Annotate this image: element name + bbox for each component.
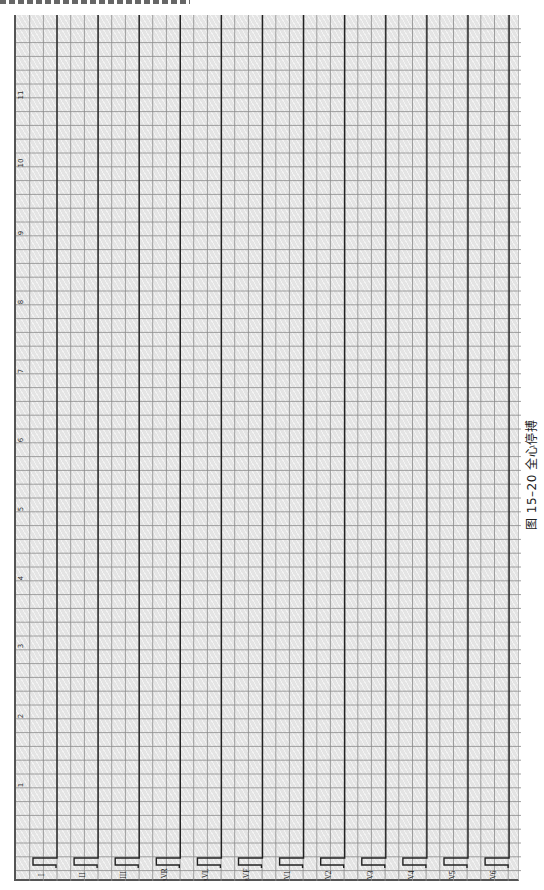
ecg-strip: 1234567891011IIIIIIaVRaVLaVFV1V2V3V4V5V6 [14,15,519,881]
lead-trace-v5 [444,15,468,868]
clipped-header-text [0,0,190,4]
time-tick-label: 10 [17,159,25,168]
time-tick-label: 3 [17,644,25,648]
lead-label-iii: III [119,871,128,879]
lead-trace-v2 [321,15,345,868]
lead-trace-avl [197,15,221,868]
lead-trace-i [33,15,57,868]
time-tick-label: 8 [17,300,25,304]
lead-trace-avf [239,15,263,868]
lead-label-v1: V1 [283,870,292,879]
lead-trace-iii [115,15,139,868]
lead-label-v3: V3 [366,870,375,879]
lead-label-v6: V6 [489,870,498,879]
time-tick-label: 5 [17,507,25,511]
time-tick-label: 2 [17,714,25,718]
time-tick-label: 9 [17,231,25,235]
lead-label-i: I [37,873,46,876]
lead-trace-v3 [362,15,386,868]
lead-label-ii: II [78,872,87,877]
time-tick-label: 7 [17,369,25,373]
time-tick-label: 11 [17,91,25,100]
time-tick-label: 4 [17,575,25,580]
lead-label-v2: V2 [324,870,333,879]
time-tick-label: 6 [17,437,25,442]
lead-trace-v1 [280,15,304,868]
lead-label-v5: V5 [448,870,457,879]
lead-label-avf: aVF [242,869,251,881]
lead-trace-avr [156,15,180,868]
lead-trace-v4 [403,15,427,868]
ecg-grid-and-traces: 1234567891011IIIIIIaVRaVLaVFV1V2V3V4V5V6 [16,15,521,881]
lead-label-v4: V4 [407,870,416,879]
lead-trace-v6 [485,15,509,868]
lead-label-avl: aVL [201,868,210,881]
figure-caption: 图 15–20 全心停搏 [522,420,539,530]
lead-label-avr: aVR [160,868,169,881]
lead-trace-ii [74,15,98,868]
time-tick-label: 1 [17,783,25,787]
